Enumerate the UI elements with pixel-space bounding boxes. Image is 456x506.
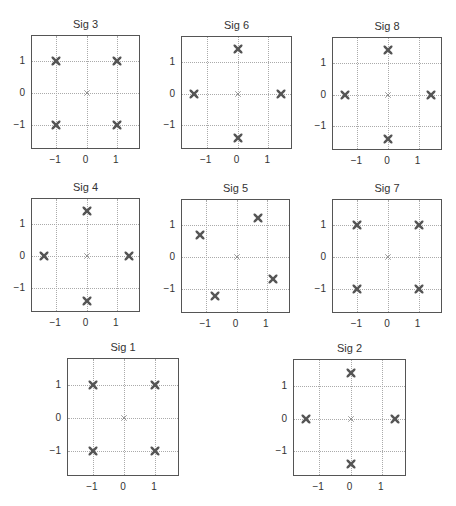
plot-title: Sig 2 <box>293 342 406 354</box>
gridline-x <box>382 360 383 475</box>
plot-sig-2: Sig 2−10110−1 <box>0 0 456 506</box>
gridline-y <box>294 386 405 387</box>
origin-x-icon <box>348 416 354 422</box>
y-tick-label: −1 <box>267 445 287 456</box>
x-tick-label: 1 <box>378 481 384 492</box>
plot-axes <box>293 359 406 476</box>
gridline-x <box>319 360 320 475</box>
x-tick-label: 0 <box>347 481 353 492</box>
x-tick-label: −1 <box>312 481 323 492</box>
y-tick-label: 0 <box>267 412 287 423</box>
constellation-point-x-icon <box>390 414 399 423</box>
constellation-point-x-icon <box>302 414 311 423</box>
constellation-point-x-icon <box>346 460 355 469</box>
gridline-y <box>294 451 405 452</box>
constellation-point-x-icon <box>346 368 355 377</box>
y-tick-label: 1 <box>267 380 287 391</box>
